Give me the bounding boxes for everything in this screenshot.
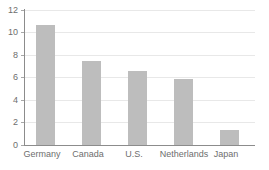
y-tick-mark-10 bbox=[21, 32, 24, 33]
bar-netherlands[interactable] bbox=[174, 79, 193, 145]
y-tick-label-10: 10 bbox=[0, 28, 18, 37]
y-tick-label-12: 12 bbox=[0, 6, 18, 15]
gridline-12 bbox=[24, 10, 255, 11]
y-axis-line bbox=[24, 9, 25, 146]
gridline-10 bbox=[24, 32, 255, 33]
plot-area bbox=[24, 10, 255, 145]
x-tick-label-japan: Japan bbox=[198, 149, 254, 160]
bar-canada[interactable] bbox=[82, 61, 101, 145]
bar-us[interactable] bbox=[128, 71, 147, 145]
y-tick-mark-12 bbox=[21, 10, 24, 11]
y-tick-label-4: 4 bbox=[0, 96, 18, 105]
y-tick-mark-4 bbox=[21, 100, 24, 101]
y-tick-mark-8 bbox=[21, 55, 24, 56]
gridline-8 bbox=[24, 55, 255, 56]
y-tick-label-8: 8 bbox=[0, 51, 18, 60]
bar-germany[interactable] bbox=[36, 25, 55, 145]
y-tick-mark-2 bbox=[21, 122, 24, 123]
y-tick-mark-0 bbox=[21, 145, 24, 146]
x-axis-line bbox=[24, 145, 255, 146]
y-tick-mark-6 bbox=[21, 77, 24, 78]
y-tick-label-6: 6 bbox=[0, 73, 18, 82]
bar-chart: 12 10 8 6 4 2 0 Germany Canada U.S. Neth… bbox=[0, 0, 269, 170]
bar-japan[interactable] bbox=[220, 130, 239, 145]
y-tick-label-2: 2 bbox=[0, 118, 18, 127]
